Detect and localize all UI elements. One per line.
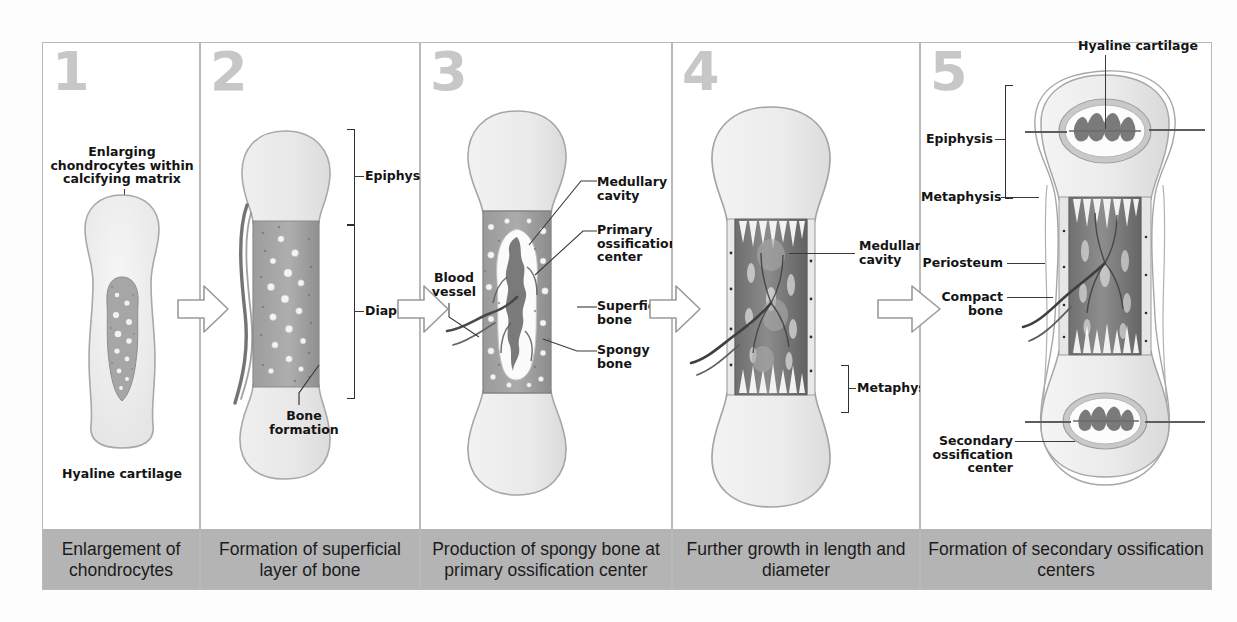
bone-model-stage-5 xyxy=(1017,65,1193,525)
bracket-epiphysis-stage-5 xyxy=(1005,85,1013,199)
label-primary-ossification-center: Primary ossification center xyxy=(597,223,677,264)
bracket-epiphysis-stage-2 xyxy=(347,129,355,225)
epiphyseal-line-lower xyxy=(1025,421,1071,423)
epiphyseal-line-lower-right xyxy=(1145,421,1205,423)
leader-diaphysis-stage-2 xyxy=(354,311,364,312)
arrow-stage-2-to-3 xyxy=(396,278,450,340)
caption-stage-4: Further growth in length and diameter xyxy=(673,529,919,589)
leader-blood-vessel xyxy=(445,301,481,339)
leader-bone-formation-stage-2 xyxy=(285,363,325,407)
step-number-1: 1 xyxy=(52,45,89,99)
label-hyaline-cartilage-stage-5: Hyaline cartilage xyxy=(1067,39,1209,53)
endochondral-ossification-figure: 1 Enlarging chondrocytes within calcifyi… xyxy=(0,0,1237,622)
leader-periosteum xyxy=(1007,263,1045,264)
panel-3-body: 3 xyxy=(421,43,671,529)
label-secondary-ossification-center: Secondary ossification center xyxy=(921,434,1013,475)
step-number-2: 2 xyxy=(210,45,247,99)
leader-hyaline-cartilage-stage-5 xyxy=(1105,55,1106,129)
bone-model-stage-4 xyxy=(691,103,851,513)
step-number-4: 4 xyxy=(682,45,719,99)
step-number-5: 5 xyxy=(930,45,967,99)
caption-stage-3: Production of spongy bone at primary oss… xyxy=(421,529,671,589)
label-medullary-cavity-stage-3: Medullary cavity xyxy=(597,175,675,202)
leader-compact-bone xyxy=(1007,297,1053,298)
leader-metaphysis-stage-4 xyxy=(848,388,856,389)
label-bone-formation: Bone formation xyxy=(259,409,349,436)
bracket-diaphysis-stage-2 xyxy=(347,225,355,399)
leader-lines-stage-3 xyxy=(519,171,603,371)
arrow-stage-4-to-5 xyxy=(876,278,942,340)
label-metaphysis-stage-5: Metaphysis xyxy=(921,190,997,204)
panel-stage-2: 2 xyxy=(200,42,420,590)
bracket-metaphysis-stage-4 xyxy=(841,365,849,413)
leader-medullary-cavity-stage-4 xyxy=(789,253,855,254)
leader-metaphysis-stage-5 xyxy=(1001,197,1039,198)
leader-epiphysis-stage-5 xyxy=(995,139,1005,140)
label-spongy-bone: Spongy bone xyxy=(597,343,673,370)
epiphyseal-line-upper xyxy=(1025,131,1067,133)
leader-epiphysis-stage-2 xyxy=(354,176,364,177)
cartilage-model-stage-1 xyxy=(67,191,177,451)
panel-5-body: 5 xyxy=(921,43,1211,529)
panel-stage-3: 3 xyxy=(420,42,672,590)
panel-2-body: 2 xyxy=(201,43,419,529)
caption-stage-2: Formation of superficial layer of bone xyxy=(201,529,419,589)
leader-secondary-ossification-center xyxy=(1015,441,1075,442)
arrow-stage-3-to-4 xyxy=(648,278,702,340)
caption-stage-5: Formation of secondary ossification cent… xyxy=(921,529,1211,589)
panel-stage-5: 5 xyxy=(920,42,1212,590)
label-enlarging-chondrocytes: Enlarging chondrocytes within calcifying… xyxy=(49,145,195,186)
arrow-stage-1-to-2 xyxy=(176,278,230,340)
label-periosteum: Periosteum xyxy=(921,256,1003,270)
step-number-3: 3 xyxy=(430,45,467,99)
epiphyseal-line-upper-right xyxy=(1149,129,1205,131)
label-hyaline-cartilage-stage-1: Hyaline cartilage xyxy=(47,467,197,481)
label-epiphysis-stage-5: Epiphysis xyxy=(923,132,993,146)
caption-stage-1: Enlargement of chondrocytes xyxy=(43,529,199,589)
